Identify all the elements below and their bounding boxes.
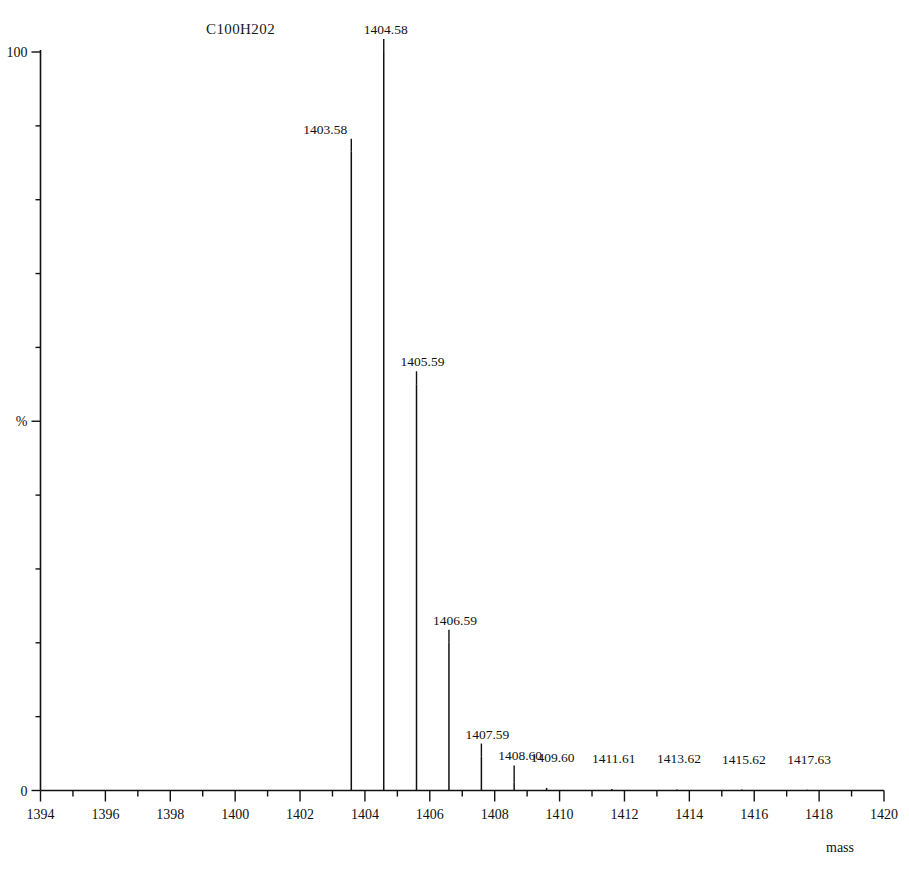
x-axis-tick-label: 1400	[221, 807, 249, 822]
peak-label: 1409.60	[531, 750, 575, 765]
peak-label: 1407.59	[465, 727, 509, 742]
x-axis-tick-label: 1394	[27, 807, 55, 822]
y-axis-tick-labels: 100%0	[7, 45, 28, 799]
peak-label: 1406.59	[433, 613, 477, 628]
peak-label: 1413.62	[657, 751, 701, 766]
x-axis-tick-label: 1414	[675, 807, 703, 822]
x-axis-ticks	[41, 791, 885, 802]
y-axis-tick-label: 0	[21, 784, 28, 799]
x-axis-tick-label: 1420	[870, 807, 898, 822]
peak-label: 1405.59	[401, 354, 445, 369]
x-axis-tick-label: 1412	[610, 807, 638, 822]
x-axis-tick-label: 1406	[416, 807, 444, 822]
y-axis-tick-label: %	[16, 414, 28, 429]
x-axis-tick-label: 1404	[351, 807, 379, 822]
x-axis-tick-label: 1402	[286, 807, 314, 822]
mass-spectrum-chart: 100%0 1394139613981400140214041406140814…	[0, 0, 909, 869]
x-axis-tick-label: 1408	[481, 807, 509, 822]
x-axis-tick-label: 1416	[740, 807, 768, 822]
peak-label: 1411.61	[592, 751, 635, 766]
peak-label: 1403.58	[303, 122, 347, 137]
x-axis-tick-label: 1410	[546, 807, 574, 822]
peak-label: 1404.58	[364, 22, 408, 37]
x-axis-tick-label: 1418	[805, 807, 833, 822]
y-axis-tick-label: 100	[7, 45, 28, 60]
peak-labels: 1403.581404.581405.591406.591407.591408.…	[303, 22, 831, 782]
peak-label: 1415.62	[722, 752, 766, 767]
x-axis-caption: mass	[826, 840, 854, 855]
peak-label: 1417.63	[787, 752, 831, 767]
y-axis-ticks	[32, 52, 41, 791]
peak-series	[351, 52, 807, 791]
x-axis-tick-label: 1396	[91, 807, 119, 822]
x-axis-tick-label: 1398	[156, 807, 184, 822]
x-axis-tick-labels: 1394139613981400140214041406140814101412…	[27, 807, 899, 822]
